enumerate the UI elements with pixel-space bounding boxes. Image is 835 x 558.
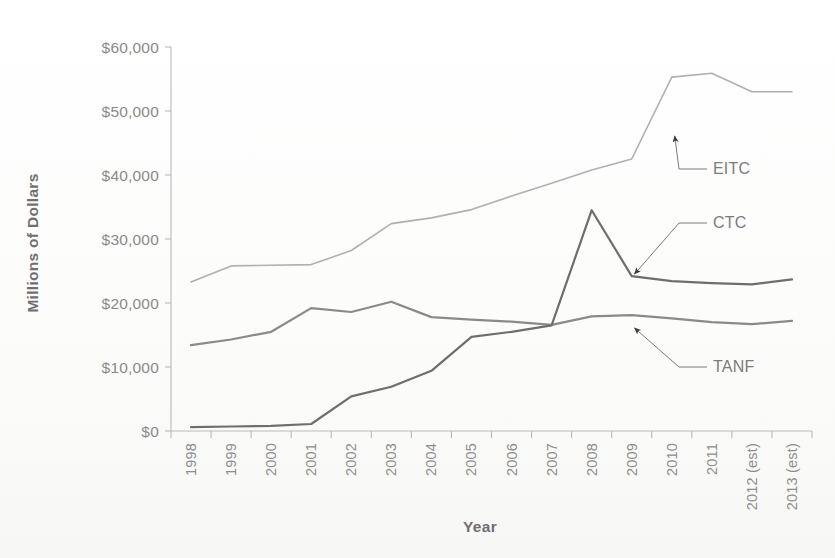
x-tick-label: 2002: [343, 443, 359, 476]
x-tick-label: 2010: [664, 443, 680, 476]
series-label-eitc: EITC: [713, 160, 750, 177]
y-tick-label: $0: [141, 423, 159, 440]
x-tick-label: 2006: [504, 443, 520, 476]
line-chart: $0$10,000$20,000$30,000$40,000$50,000$60…: [0, 0, 835, 558]
x-tick-label: 2009: [624, 443, 640, 476]
y-tick-label: $10,000: [102, 359, 160, 376]
x-tick-label: 2011: [704, 443, 720, 475]
x-tick-label: 2003: [383, 443, 399, 476]
x-tick-label: 2000: [263, 443, 279, 476]
y-tick-label: $30,000: [102, 231, 160, 248]
x-tick-label: 2008: [584, 443, 600, 476]
x-tick-label: 2013 (est): [784, 443, 800, 510]
series-line-tanf: [191, 302, 792, 346]
annotation-leader-ctc: [635, 223, 707, 274]
series-annotations: EITCCTCTANF: [635, 136, 755, 375]
x-tick-label: 2005: [463, 443, 479, 476]
series-line-eitc: [191, 73, 792, 282]
series-line-ctc: [191, 210, 792, 427]
annotation-leader-eitc: [675, 136, 707, 169]
x-tick-label: 2012 (est): [744, 443, 760, 510]
y-tick-label: $60,000: [102, 39, 160, 56]
x-axis: 1998199920002001200220032004200520062007…: [171, 431, 812, 510]
y-axis: $0$10,000$20,000$30,000$40,000$50,000$60…: [102, 39, 171, 440]
x-tick-label: 1999: [223, 443, 239, 476]
annotation-leader-tanf: [635, 328, 707, 367]
x-tick-label: 2007: [544, 443, 560, 476]
x-tick-label: 1998: [183, 443, 199, 476]
series-label-ctc: CTC: [713, 214, 746, 231]
chart-figure: $0$10,000$20,000$30,000$40,000$50,000$60…: [0, 0, 835, 558]
y-tick-label: $40,000: [102, 167, 160, 184]
series-lines: [191, 73, 792, 427]
series-label-tanf: TANF: [713, 358, 754, 375]
y-tick-label: $50,000: [102, 103, 160, 120]
x-axis-title: Year: [463, 518, 497, 535]
x-tick-label: 2001: [303, 443, 319, 476]
y-axis-title: Millions of Dollars: [24, 173, 41, 312]
x-tick-label: 2004: [423, 443, 439, 476]
y-tick-label: $20,000: [102, 295, 160, 312]
